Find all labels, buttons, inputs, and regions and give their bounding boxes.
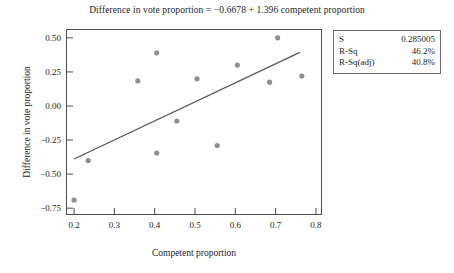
data-point <box>275 35 280 40</box>
data-point <box>235 63 240 68</box>
x-tick-label: 0.6 <box>230 220 241 230</box>
data-point <box>267 80 272 85</box>
x-tick-label: 0.2 <box>68 220 79 230</box>
chart-title: Difference in vote proportion = −0.6678 … <box>0 5 454 15</box>
data-point <box>135 78 140 83</box>
x-tick-label: 0.5 <box>189 220 200 230</box>
data-point <box>154 150 159 155</box>
statistics-value: 40.8% <box>412 57 435 69</box>
statistics-row: R-Sq(adj)40.8% <box>339 57 435 69</box>
data-point <box>86 158 91 163</box>
data-points <box>71 35 304 202</box>
statistics-key: R-Sq(adj) <box>339 57 375 69</box>
statistics-value: 46.2% <box>412 46 435 58</box>
x-tick-label: 0.7 <box>270 220 281 230</box>
plot-canvas <box>66 29 322 215</box>
statistics-row: R-Sq46.2% <box>339 46 435 58</box>
x-tick-label: 0.8 <box>310 220 321 230</box>
plot-area: 0.500.250.00−0.25−0.50−0.75 0.20.30.40.5… <box>66 29 322 215</box>
x-axis-title: Competent proportion <box>66 248 322 258</box>
data-point <box>71 197 76 202</box>
regression-line <box>74 52 300 159</box>
y-axis-title: Difference in vote proportion <box>20 29 34 215</box>
x-tick-label: 0.4 <box>149 220 160 230</box>
statistics-box: S0.285005R-Sq46.2%R-Sq(adj)40.8% <box>333 30 441 74</box>
data-point <box>174 118 179 123</box>
statistics-key: R-Sq <box>339 46 358 58</box>
scatter-plot-figure: Difference in vote proportion = −0.6678 … <box>0 0 454 273</box>
data-point <box>194 76 199 81</box>
axis-ticks <box>66 38 316 215</box>
statistics-value: 0.285005 <box>401 34 435 46</box>
data-point <box>215 143 220 148</box>
data-point <box>299 73 304 78</box>
statistics-key: S <box>339 34 344 46</box>
statistics-row: S0.285005 <box>339 34 435 46</box>
x-tick-label: 0.3 <box>109 220 120 230</box>
data-point <box>154 50 159 55</box>
